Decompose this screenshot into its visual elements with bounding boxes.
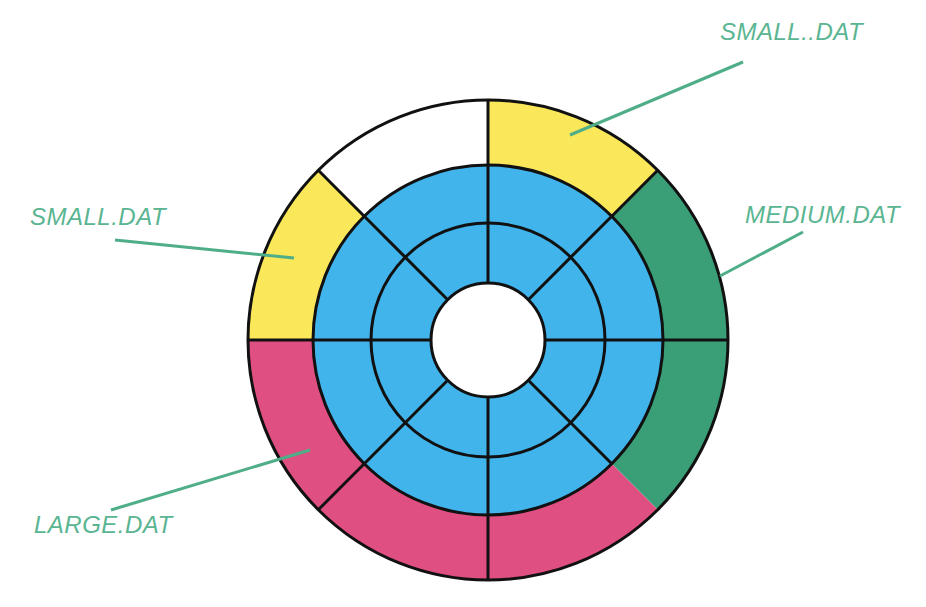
- leader-line-large-dat: [111, 450, 310, 510]
- leader-line-medium-dat: [720, 232, 803, 276]
- label-medium-dat: MEDIUM.DAT: [745, 203, 900, 227]
- disk-ring-diagram: SMALL..DAT SMALL.DAT MEDIUM.DAT LARGE.DA…: [0, 0, 926, 607]
- label-small-dat-2: SMALL..DAT: [720, 20, 863, 44]
- label-large-dat: LARGE.DAT: [34, 513, 173, 537]
- leader-line-small-dat-2: [570, 62, 743, 135]
- label-small-dat: SMALL.DAT: [30, 205, 166, 229]
